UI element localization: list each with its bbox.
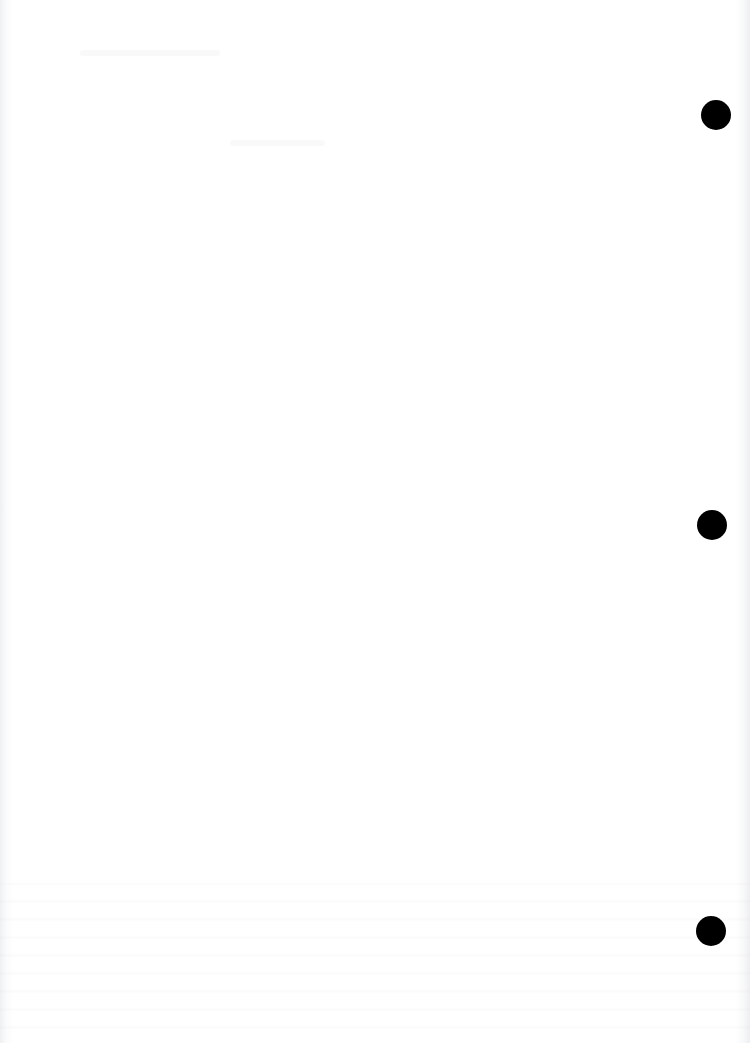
punch-hole-middle bbox=[697, 510, 727, 540]
punch-hole-bottom bbox=[696, 916, 726, 946]
punch-hole-top bbox=[701, 100, 731, 130]
bleed-through-area bbox=[0, 883, 750, 1043]
bleed-through-mark bbox=[230, 140, 325, 146]
blank-scanned-page bbox=[0, 0, 750, 1043]
bleed-through-mark bbox=[80, 50, 220, 56]
